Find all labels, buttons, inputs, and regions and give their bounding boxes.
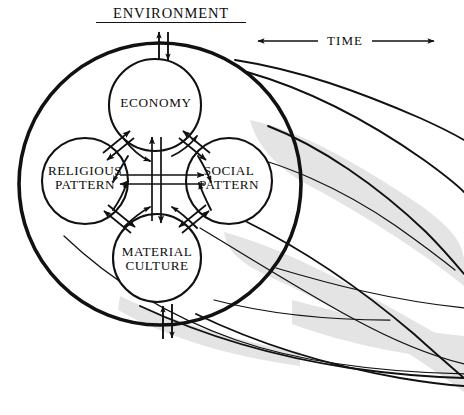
node-label-social: SOCIAL PATTERN [180,164,278,192]
arrow-social-to-economy [183,131,210,153]
diagram-canvas: ENVIRONMENT TIME ECONOMY RELIGIOUS PATTE… [0,0,464,415]
time-axis-label: TIME [318,34,372,48]
node-label-religious-line1: RELIGIOUS [33,164,137,178]
node-label-economy-line1: ECONOMY [104,96,208,110]
node-label-economy: ECONOMY [104,96,208,110]
arrow-religious-to-material [108,205,135,227]
node-label-religious: RELIGIOUS PATTERN [33,164,137,192]
node-label-material-line1: MATERIAL [105,245,209,259]
arrow-material-to-religious [104,211,131,233]
node-label-material: MATERIAL CULTURE [105,245,209,273]
node-label-material-line2: CULTURE [105,259,209,273]
systems-diagram-svg [0,0,464,415]
node-label-social-line2: PATTERN [180,178,278,192]
node-label-religious-line2: PATTERN [33,178,137,192]
node-label-social-line1: SOCIAL [180,164,278,178]
environment-title: ENVIRONMENT [96,6,246,23]
